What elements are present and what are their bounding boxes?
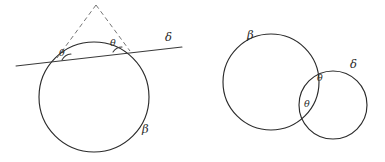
right-big-circle-label-beta: β [247, 30, 254, 42]
figure-canvas [0, 0, 385, 162]
right-angle-label-theta-2: θ [304, 99, 310, 109]
left-angle-label-theta-2: θ [110, 38, 116, 48]
left-circle-beta [39, 42, 149, 152]
right-small-circle-label-delta: δ [350, 59, 357, 71]
right-big-circle-beta [223, 34, 319, 130]
left-circle-label-beta: β [142, 124, 149, 136]
right-panel-group [223, 34, 367, 139]
geometry-figure: θ θ δ β θ θ β δ [0, 0, 385, 162]
left-panel-group [16, 5, 182, 152]
left-secant-line-delta [16, 47, 182, 66]
left-line-label-delta: δ [165, 32, 172, 44]
right-angle-label-theta-1: θ [317, 73, 323, 83]
left-angle-label-theta-1: θ [59, 48, 65, 58]
